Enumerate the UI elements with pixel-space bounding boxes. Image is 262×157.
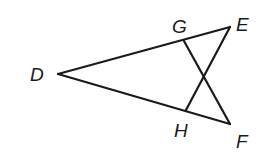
- vertex-labels-group: D G E H F: [30, 14, 249, 152]
- segment-DF: [58, 74, 230, 124]
- label-e: E: [236, 14, 249, 35]
- label-g: G: [172, 16, 187, 37]
- segment-DE: [58, 27, 230, 74]
- label-h: H: [174, 120, 188, 141]
- geometry-diagram: D G E H F: [0, 0, 262, 157]
- label-d: D: [30, 64, 44, 85]
- label-f: F: [236, 131, 249, 152]
- segment-HE: [186, 27, 230, 110]
- segments-group: [58, 27, 230, 124]
